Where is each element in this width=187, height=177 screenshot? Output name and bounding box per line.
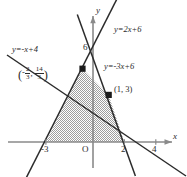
- x-tick-label-4: 4: [152, 145, 157, 154]
- y-tick-label-6: 6: [83, 43, 88, 52]
- vertex-y-fraction: 143: [35, 66, 44, 81]
- paren-close: ): [44, 68, 48, 82]
- y-axis-label: y: [96, 6, 100, 15]
- point-label-vertex-top: (-23, 143): [18, 66, 48, 81]
- vertex-marker-right: [106, 92, 112, 98]
- x-axis-arrow: [165, 139, 173, 145]
- vertex-label-comma: ,: [30, 68, 32, 78]
- origin-label: O: [82, 145, 89, 154]
- point-label-1-3: (1, 3): [114, 85, 132, 94]
- x-axis-label: x: [173, 132, 177, 141]
- graph-figure: y=2x+6 y=-3x+6 y=-x+4 y x 6 -3 2 4 O (1,…: [0, 0, 187, 177]
- vertex-marker-top: [79, 66, 85, 72]
- equation-label-line2: y=-3x+6: [104, 62, 134, 71]
- x-tick-label-neg3: -3: [41, 145, 49, 154]
- x-tick-label-2: 2: [121, 145, 126, 154]
- equation-label-line1: y=2x+6: [114, 25, 142, 34]
- shaded-region: [46, 69, 125, 142]
- y-axis-arrow: [90, 16, 95, 23]
- coordinate-plot: [0, 0, 187, 177]
- equation-label-line3: y=-x+4: [12, 45, 38, 54]
- vertex-y-denominator: 3: [35, 74, 44, 81]
